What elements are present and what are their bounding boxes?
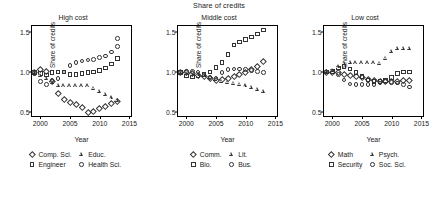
legend-label: Security (338, 161, 363, 168)
data-point-triangle (249, 85, 253, 89)
x-axis-label: Year (31, 136, 132, 143)
legend-label: Math (338, 151, 353, 158)
x-tick-label: 2000 (325, 120, 340, 127)
data-point-triangle (336, 64, 340, 68)
panel-title: Middle cost (146, 14, 292, 21)
legend-label: Psych. (379, 151, 399, 158)
panel-high-cost: High cost Share of credits 0.51.01.52000… (0, 14, 146, 197)
data-point-circle (237, 67, 242, 72)
data-point-triangle (342, 61, 346, 65)
square-marker-icon (328, 162, 334, 168)
x-tick-mark (275, 116, 276, 119)
data-point-circle (330, 70, 335, 75)
data-point-square (191, 162, 196, 167)
data-point-square (348, 67, 353, 72)
plot-axes: Share of credits 0.51.01.520002005201020… (323, 25, 424, 117)
legend-label: Bus. (238, 161, 252, 168)
data-point-circle (342, 78, 347, 83)
data-point-triangle (377, 61, 381, 65)
data-point-circle (378, 81, 383, 86)
x-tick-label: 2015 (122, 120, 137, 127)
triangle-marker-icon (79, 152, 85, 158)
data-point-circle (395, 81, 400, 86)
circle-marker-icon (79, 162, 85, 168)
x-tick-label: 2005 (354, 120, 369, 127)
data-point-circle (370, 162, 375, 167)
y-tick-mark (321, 111, 324, 112)
data-point-triangle (255, 87, 259, 91)
figure-suptitle: Share of credits (0, 1, 438, 10)
x-tick-label: 2010 (384, 120, 399, 127)
data-point-circle (74, 60, 79, 65)
panel-title: High cost (0, 14, 146, 21)
legend: Comp. Sci.Educ.EngineerHealth Sci. (10, 151, 140, 168)
data-point-triangle (225, 80, 229, 84)
diamond-marker-icon (328, 152, 334, 158)
data-point-circle (389, 80, 394, 85)
data-point-circle (229, 162, 234, 167)
legend-label: Lit. (238, 151, 247, 158)
triangle-marker-icon (369, 152, 375, 158)
data-point-circle (372, 82, 377, 87)
data-point-triangle (79, 152, 83, 156)
data-point-diamond (79, 104, 85, 110)
data-point-triangle (56, 83, 60, 87)
legend-item[interactable]: Math (328, 151, 362, 158)
data-point-square (86, 70, 91, 75)
data-point-triangle (61, 83, 65, 87)
y-tick-mark (321, 32, 324, 33)
data-point-triangle (38, 73, 42, 77)
data-point-square (68, 72, 73, 77)
circle-marker-icon (369, 162, 375, 168)
data-point-circle (354, 82, 359, 87)
x-tick-label: 2005 (208, 120, 223, 127)
data-point-triangle (370, 152, 374, 156)
data-point-square (226, 52, 231, 57)
x-tick-mark (362, 116, 363, 119)
data-point-square (407, 70, 412, 75)
data-point-square (50, 70, 55, 75)
legend-item[interactable]: Bio. (190, 161, 221, 168)
data-point-diamond (406, 77, 412, 83)
data-point-triangle (237, 82, 241, 86)
data-point-circle (178, 70, 183, 75)
data-point-triangle (229, 152, 233, 156)
legend-item[interactable]: Bus. (229, 161, 252, 168)
data-point-square (329, 162, 334, 167)
x-tick-label: 2010 (92, 120, 107, 127)
data-point-circle (103, 54, 108, 59)
legend-item[interactable]: Engineer (29, 161, 72, 168)
x-tick-mark (216, 116, 217, 119)
legend-item[interactable]: Psych. (369, 151, 405, 158)
data-point-square (354, 70, 359, 75)
data-point-square (30, 162, 35, 167)
legend-item[interactable]: Soc. Sci. (369, 161, 405, 168)
x-tick-label: 2005 (62, 120, 77, 127)
legend-item[interactable]: Educ. (79, 151, 121, 158)
y-tick-mark (321, 72, 324, 73)
data-point-circle (68, 63, 73, 68)
data-point-circle (184, 69, 189, 74)
data-point-triangle (79, 83, 83, 87)
data-point-circle (255, 69, 260, 74)
data-point-circle (86, 58, 91, 63)
legend-item[interactable]: Security (328, 161, 362, 168)
x-tick-mark (421, 116, 422, 119)
data-point-square (109, 62, 114, 67)
data-point-circle (97, 55, 102, 60)
legend-item[interactable]: Comm. (190, 151, 221, 158)
square-marker-icon (190, 162, 196, 168)
legend-item[interactable]: Lit. (229, 151, 252, 158)
data-point-triangle (115, 98, 119, 102)
y-tick-mark (29, 32, 32, 33)
data-point-square (91, 70, 96, 75)
legend-item[interactable]: Health Sci. (79, 161, 121, 168)
panel-low-cost: Low cost Share of credits 0.51.01.520002… (292, 14, 438, 197)
data-point-square (74, 72, 79, 77)
data-point-triangle (383, 56, 387, 60)
data-point-circle (80, 59, 85, 64)
legend-item[interactable]: Comp. Sci. (29, 151, 72, 158)
data-point-circle (202, 72, 207, 77)
data-point-triangle (353, 60, 357, 64)
data-point-square (97, 68, 102, 73)
